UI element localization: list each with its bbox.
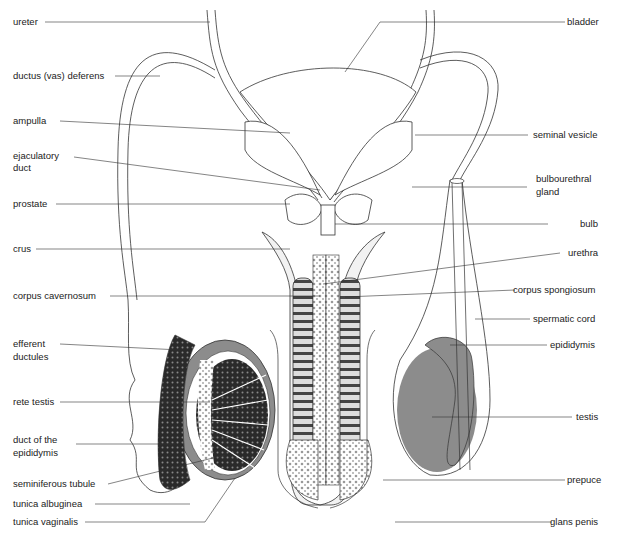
label-glans-penis: glans penis (550, 516, 598, 528)
label-crus: crus (13, 243, 31, 255)
label-corpus-spongiosum: corpus spongiosum (513, 284, 595, 296)
label-ejaculatory-duct-line1: ejaculatory (13, 150, 59, 162)
label-seminal-vesicle: seminal vesicle (533, 129, 597, 141)
label-duct-epididymis-line2: epididymis (13, 447, 58, 459)
label-bulb: bulb (580, 218, 598, 230)
label-efferent-ductules-line1: efferent (13, 338, 45, 350)
label-corpus-cavernosum: corpus cavernosum (13, 290, 96, 302)
label-ureter: ureter (13, 16, 38, 28)
left-testis-section (128, 300, 275, 493)
label-bulbourethral-gland-line2: gland (536, 186, 559, 198)
label-ductus-deferens: ductus (vas) deferens (13, 70, 104, 82)
label-ejaculatory-duct-line2: duct (13, 162, 31, 174)
label-rete-testis: rete testis (13, 396, 54, 408)
label-bulbourethral-gland-line1: bulbourethral (536, 173, 591, 185)
label-tunica-vaginalis: tunica vaginalis (13, 516, 78, 528)
label-urethra: urethra (568, 247, 598, 259)
label-testis: testis (576, 411, 598, 423)
label-duct-epididymis-line1: duct of the (13, 434, 57, 446)
label-efferent-ductules-line2: ductules (13, 351, 48, 363)
right-testis (393, 179, 490, 476)
label-spermatic-cord: spermatic cord (533, 313, 595, 325)
label-ampulla: ampulla (13, 115, 46, 127)
label-seminiferous-tubule: seminiferous tubule (13, 478, 95, 490)
prostate-shape (285, 194, 372, 235)
label-tunica-albuginea: tunica albuginea (13, 498, 82, 510)
anatomy-diagram: ureter ductus (vas) deferens ampulla eja… (0, 0, 618, 540)
label-bladder: bladder (567, 16, 599, 28)
penis-shaft (262, 232, 385, 508)
label-prepuce: prepuce (567, 474, 601, 486)
label-prostate: prostate (13, 198, 47, 210)
label-epididymis: epididymis (550, 339, 595, 351)
